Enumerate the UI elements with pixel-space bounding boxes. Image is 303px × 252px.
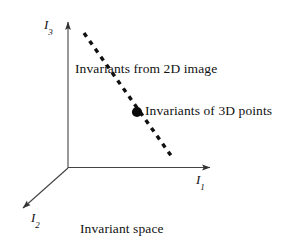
annotation-invariants-from-2d-image: Invariants from 2D image [75, 62, 217, 76]
figure-caption: Invariant space [80, 222, 164, 236]
axis-label-i2: I2 [31, 211, 40, 228]
axis-label-i3: I3 [44, 18, 53, 35]
invariant-line-dashed [84, 33, 172, 157]
axis-label-i1: I1 [196, 173, 205, 190]
invariant-space-figure: I3 I1 I2 Invariants from 2D image Invari… [0, 0, 303, 252]
invariant-point-marker [132, 107, 142, 117]
annotation-invariants-of-3d-points: Invariants of 3D points [145, 104, 272, 118]
axes-and-plot [0, 0, 303, 252]
axis-i2 [23, 168, 68, 208]
